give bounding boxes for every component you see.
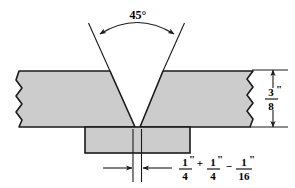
root-gap-minus-tolerance-inch-mark: " <box>249 153 255 165</box>
thickness-inch-mark: " <box>276 83 282 95</box>
backing-bar <box>85 127 190 153</box>
angle-dimension-label: 45° <box>130 8 147 22</box>
drawing-canvas: 45° 3 " 8 1 " 4 + 1 " 4 − 1 " <box>0 0 295 188</box>
root-gap-plus-tolerance-numerator: 1 <box>210 156 216 168</box>
root-gap-minus-tolerance-denominator: 16 <box>239 170 251 182</box>
angle-dimension-arc <box>100 23 174 35</box>
root-gap-base-denominator: 4 <box>182 170 188 182</box>
right-plate <box>140 71 253 127</box>
thickness-denominator: 8 <box>268 100 274 112</box>
root-gap-plus-tolerance-inch-mark: " <box>217 153 223 165</box>
root-gap-minus-tolerance-numerator: 1 <box>241 156 247 168</box>
left-plate <box>16 71 135 127</box>
root-gap-plus-sign: + <box>197 157 203 169</box>
root-gap-plus-tolerance-denominator: 4 <box>210 170 216 182</box>
root-gap-minus-sign: − <box>226 160 232 172</box>
thickness-numerator: 3 <box>268 86 274 98</box>
weld-joint-drawing: 45° 3 " 8 1 " 4 + 1 " 4 − 1 " <box>0 0 295 188</box>
root-gap-base-numerator: 1 <box>182 156 188 168</box>
root-gap-base-inch-mark: " <box>189 153 195 165</box>
